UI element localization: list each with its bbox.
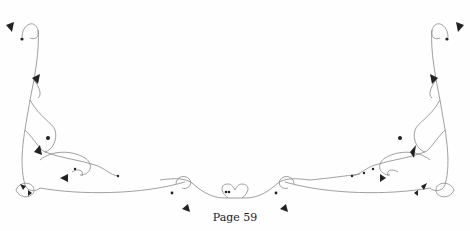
page-number: Page 59 bbox=[0, 211, 470, 224]
decorative-border bbox=[0, 0, 470, 231]
document-page: Page 59 bbox=[0, 0, 470, 231]
right-corner-flourish-icon bbox=[285, 24, 454, 197]
left-corner-flourish-icon bbox=[16, 24, 185, 197]
heart-scroll-ornament-icon bbox=[160, 174, 360, 198]
